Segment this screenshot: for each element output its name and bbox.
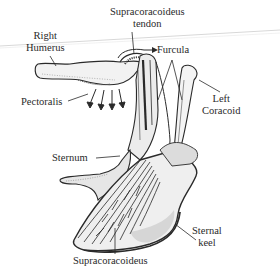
label-text: Left — [202, 93, 241, 105]
label-pectoralis: Pectoralis — [21, 96, 62, 108]
label-text: tendon — [110, 18, 185, 30]
label-text: Supracoracoideus — [110, 6, 185, 18]
label-text: Humerus — [26, 42, 65, 54]
label-text: Supracoracoideus — [73, 255, 148, 266]
label-furcula: Furcula — [157, 44, 189, 56]
label-text: Sternal — [192, 225, 222, 237]
label-left-coracoid: Left Coracoid — [202, 93, 241, 117]
label-text: Pectoralis — [21, 96, 62, 107]
label-text: keel — [192, 237, 222, 249]
label-sternum: Sternum — [52, 152, 88, 164]
pectoralis-arrows — [87, 89, 125, 110]
right-humerus-bone — [35, 61, 140, 85]
label-sternal-keel: Sternal keel — [192, 225, 222, 249]
label-text: Right — [26, 30, 65, 42]
label-right-humerus: Right Humerus — [26, 30, 65, 54]
label-supracoracoideus-tendon: Supracoracoideus tendon — [110, 6, 185, 30]
left-coracoid-bone — [174, 65, 197, 150]
label-supracoracoideus: Supracoracoideus — [73, 255, 148, 267]
label-text: Furcula — [157, 44, 189, 55]
anatomy-diagram: Supracoracoideus tendon Right Humerus Fu… — [0, 0, 280, 276]
label-text: Sternum — [52, 152, 88, 163]
label-text: Coracoid — [202, 105, 241, 117]
